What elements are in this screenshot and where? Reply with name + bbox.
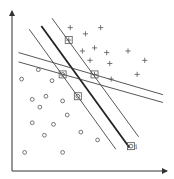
points-layer — [20, 25, 148, 154]
circle-point — [65, 113, 69, 117]
plus-point — [87, 58, 92, 63]
plus-point — [83, 31, 88, 36]
circle-point — [20, 77, 24, 81]
plus-point — [142, 58, 147, 63]
circle-point — [79, 130, 83, 134]
plus-point — [80, 48, 85, 53]
support-vectors-layer: i — [59, 37, 138, 151]
circle-point — [43, 133, 47, 137]
circle-point — [38, 105, 42, 109]
svm-diagram: i — [0, 0, 174, 179]
support-vector-label: i — [135, 143, 138, 151]
circle-point — [36, 68, 40, 72]
support-vector: i — [128, 143, 138, 151]
support-vector — [91, 71, 98, 78]
circle-point — [129, 144, 133, 148]
plus-point — [104, 50, 109, 55]
circle-point — [61, 151, 65, 155]
plus-point — [107, 61, 112, 66]
optimal-hyperplane-line — [41, 26, 129, 148]
circle-point — [96, 138, 100, 142]
circle-point — [44, 94, 48, 98]
circle-point — [52, 122, 56, 126]
plus-point — [109, 76, 114, 81]
plus-point — [125, 48, 130, 53]
plus-point — [92, 72, 97, 77]
circle-point — [30, 121, 34, 125]
circle-point — [50, 79, 54, 83]
margin-lower-line — [29, 29, 116, 149]
circle-point — [23, 151, 27, 155]
plus-point — [135, 72, 140, 77]
lines-layer — [19, 18, 163, 149]
alt-hyperplane-lower-line — [19, 62, 163, 103]
circle-point — [30, 97, 34, 101]
plus-point — [68, 25, 73, 30]
circle-point — [61, 99, 65, 103]
plus-point — [98, 25, 103, 30]
plus-point — [92, 45, 97, 50]
